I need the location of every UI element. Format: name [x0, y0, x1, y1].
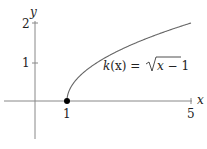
plot-svg: y x 2 1 1 5 k(x) = x − 1 [0, 0, 207, 149]
y-tick-label-1: 1 [22, 56, 30, 70]
x-tick-label-5: 5 [187, 107, 195, 121]
x-axis-label: x [197, 93, 204, 107]
y-axis-label: y [29, 5, 37, 19]
x-tick-label-1: 1 [63, 107, 71, 121]
function-label: k(x) = [103, 59, 140, 73]
y-tick-label-2: 2 [22, 17, 30, 31]
endpoint-dot [64, 98, 70, 104]
sqrt-body: x − 1 [157, 59, 189, 73]
function-plot: y x 2 1 1 5 k(x) = x − 1 [0, 0, 207, 149]
